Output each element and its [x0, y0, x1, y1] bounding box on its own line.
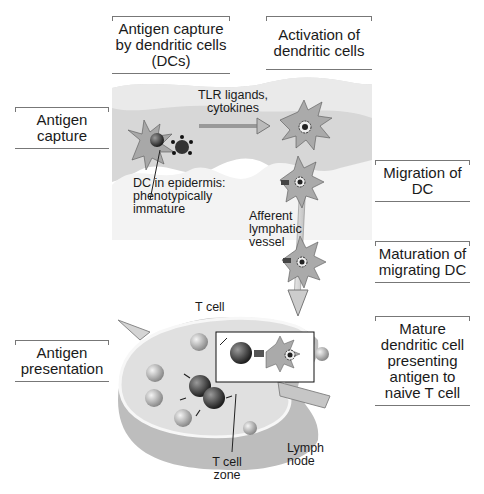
label-maturation-of-migrating-dc: Maturation of migrating DC: [375, 241, 470, 283]
annotation-t-cell: T cell: [195, 301, 225, 314]
label-antigen-presentation: Antigen presentation: [15, 340, 109, 382]
annotation-lymph-node: Lymph node: [287, 442, 327, 468]
annotation-tlr-ligands: TLR ligands, cytokines: [197, 89, 269, 115]
annotation-dc-in-epidermis: DC in epidermis: phenotypically immature: [133, 177, 243, 216]
annotation-t-cell-zone: T cell zone: [207, 456, 247, 482]
label-antigen-capture: Antigen capture: [15, 107, 109, 149]
label-migration-of-dc: Migration of DC: [375, 160, 470, 202]
label-mature-dc-presenting: Mature dendritic cell presenting antigen…: [375, 316, 470, 406]
presentation-inset: [216, 332, 314, 382]
label-antigen-capture-by-dcs: Antigen capture by dendritic cells (DCs): [112, 16, 230, 74]
annotation-afferent-lymphatic-vessel: Afferent lymphatic vessel: [249, 210, 311, 249]
label-activation-of-dcs: Activation of dendritic cells: [266, 16, 372, 70]
